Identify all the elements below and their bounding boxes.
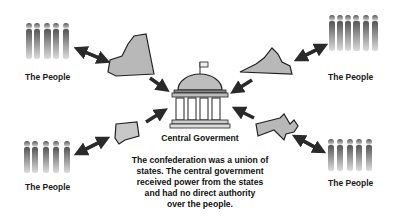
caption-line: and had no direct authority xyxy=(120,188,280,199)
caption-line: The confederation was a union of xyxy=(120,155,280,166)
caption-line: received power from the states xyxy=(120,177,280,188)
caption: The confederation was a union of states.… xyxy=(120,155,280,210)
caption-line: states. The central government xyxy=(120,166,280,177)
caption-line: over the people. xyxy=(120,199,280,210)
capitol-building-icon xyxy=(168,60,232,132)
central-government-label: Central Goverment xyxy=(158,133,242,143)
